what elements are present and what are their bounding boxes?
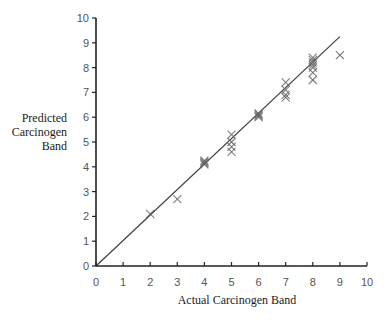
x-tick-label: 8 [310, 276, 316, 288]
x-tick-label: 0 [93, 276, 99, 288]
x-tick-label: 9 [337, 276, 343, 288]
regression-line [96, 37, 340, 266]
scatter-chart: 012345678910012345678910Actual Carcinoge… [0, 0, 385, 321]
data-point-x-marker [146, 210, 154, 218]
y-tick-label: 7 [83, 86, 89, 98]
y-axis-title: Band [42, 139, 67, 153]
data-points [146, 51, 344, 218]
y-tick-label: 0 [83, 260, 89, 272]
y-tick-label: 10 [77, 12, 89, 24]
y-axis-title: Predicted [22, 111, 67, 125]
fit-line [96, 37, 340, 266]
y-tick-label: 4 [83, 161, 89, 173]
x-tick-label: 10 [361, 276, 373, 288]
x-tick-label: 3 [174, 276, 180, 288]
x-tick-label: 5 [228, 276, 234, 288]
data-point-x-marker [336, 51, 344, 59]
y-tick-label: 9 [83, 37, 89, 49]
x-tick-label: 1 [120, 276, 126, 288]
y-tick-label: 1 [83, 235, 89, 247]
y-tick-label: 2 [83, 210, 89, 222]
x-tick-label: 2 [147, 276, 153, 288]
data-point-x-marker [173, 195, 181, 203]
y-tick-label: 6 [83, 111, 89, 123]
x-tick-label: 7 [283, 276, 289, 288]
data-point-x-marker [228, 131, 236, 139]
y-axis-title: Carcinogen [12, 125, 67, 139]
y-tick-label: 8 [83, 62, 89, 74]
axes [92, 18, 367, 266]
x-tick-label: 4 [201, 276, 207, 288]
data-point-x-marker [282, 78, 290, 86]
y-tick-label: 3 [83, 186, 89, 198]
y-tick-label: 5 [83, 136, 89, 148]
x-axis-title: Actual Carcinogen Band [178, 293, 297, 307]
x-tick-label: 6 [256, 276, 262, 288]
data-point-x-marker [309, 76, 317, 84]
